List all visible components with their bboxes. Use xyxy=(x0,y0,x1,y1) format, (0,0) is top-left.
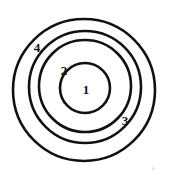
ring-label-2: 2 xyxy=(61,64,68,77)
ring-label-3: 3 xyxy=(122,114,129,127)
ring-label-4: 4 xyxy=(34,41,41,54)
ring-label-1: 1 xyxy=(83,83,90,96)
background-speck xyxy=(152,167,155,170)
concentric-circles-diagram: 1 2 3 4 xyxy=(0,0,172,182)
